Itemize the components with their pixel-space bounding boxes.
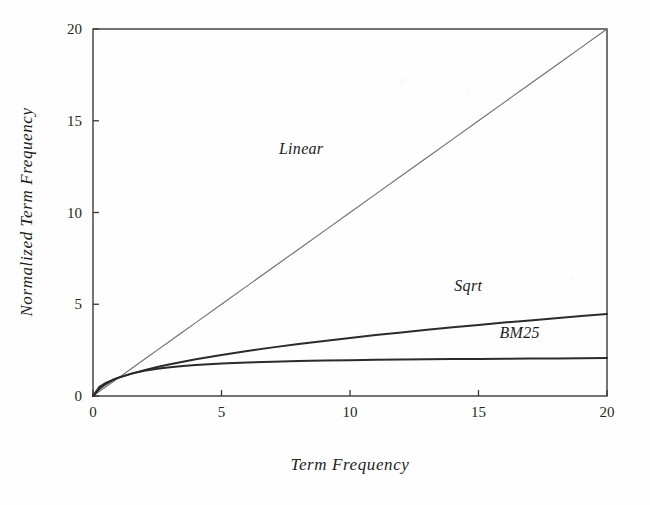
x-tick-label: 5 bbox=[218, 404, 226, 420]
x-tick-label: 20 bbox=[600, 404, 615, 420]
x-tick-label: 15 bbox=[471, 404, 486, 420]
y-tick-label: 0 bbox=[75, 388, 83, 404]
chart-page: 05101520 05101520 LinearSqrtBM25 Term Fr… bbox=[0, 0, 650, 505]
x-axis-tick-labels: 05101520 bbox=[89, 404, 614, 420]
y-tick-label: 5 bbox=[75, 296, 83, 312]
series-label-sqrt: Sqrt bbox=[454, 277, 482, 295]
x-axis-title: Term Frequency bbox=[290, 455, 409, 474]
y-tick-label: 15 bbox=[67, 113, 82, 129]
x-tick-label: 10 bbox=[343, 404, 358, 420]
y-axis-ticks bbox=[93, 29, 99, 396]
series-label-bm25: BM25 bbox=[499, 324, 539, 341]
y-axis-tick-labels: 05101520 bbox=[67, 21, 82, 404]
y-tick-label: 20 bbox=[67, 21, 82, 37]
term-frequency-normalization-chart: 05101520 05101520 LinearSqrtBM25 Term Fr… bbox=[0, 0, 650, 505]
x-tick-label: 0 bbox=[89, 404, 97, 420]
y-tick-label: 10 bbox=[67, 205, 82, 221]
series-label-linear: Linear bbox=[278, 140, 324, 157]
y-axis-title: Normalized Term Frequency bbox=[17, 107, 36, 317]
x-axis-ticks bbox=[93, 390, 607, 396]
